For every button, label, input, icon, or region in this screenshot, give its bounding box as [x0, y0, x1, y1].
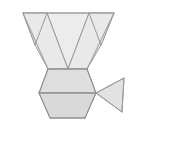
hexagon-lower-half	[39, 93, 96, 118]
right-side-triangle	[96, 78, 124, 112]
polyhedron-net-diagram	[0, 0, 186, 152]
figure-canvas	[0, 0, 186, 152]
hexagon-upper-half	[39, 69, 96, 93]
